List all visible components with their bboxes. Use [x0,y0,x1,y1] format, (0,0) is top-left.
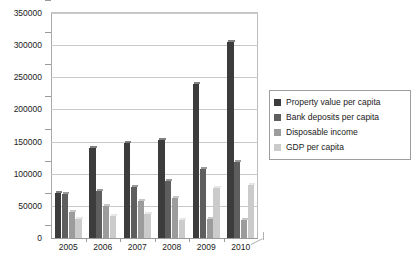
bar [124,143,130,238]
legend-swatch-icon [274,114,281,121]
bar-face [241,220,247,238]
legend-item: Property value per capita [274,95,407,110]
bar-top-cap [249,183,255,185]
bar [144,214,150,238]
y-tick-label: 0 [0,234,42,243]
bar [110,216,116,238]
bar-face [103,206,109,238]
bar [200,169,206,238]
bar-face [172,198,178,238]
y-tick-label: 150000 [0,138,42,147]
y-tick-mark [45,129,51,130]
bar-face [234,162,240,238]
bar [207,219,213,238]
bar [234,162,240,238]
legend-item-label: Disposable income [286,128,358,137]
x-tick-label: 2009 [189,243,224,252]
bar-top-cap [145,212,151,214]
bar [55,193,61,238]
x-tick-label: 2005 [51,243,86,252]
y-tick-label: 250000 [0,73,42,82]
bar-top-cap [159,138,165,140]
legend-item: Disposable income [274,125,407,140]
bar [69,212,75,238]
bar-face [110,216,116,238]
bar-top-cap [173,196,179,198]
x-tick-mark [86,238,87,242]
y-tick-label: 300000 [0,41,42,50]
bar [179,220,185,238]
bar-top-cap [132,185,138,187]
x-tick-label: 2010 [224,243,259,252]
legend-item-label: GDP per capita [286,143,344,152]
bar-face [165,181,171,238]
plot-area [51,13,258,238]
y-tick-mark [45,64,51,65]
bar-face [96,191,102,238]
x-tick-label: 2007 [120,243,155,252]
bar [75,219,81,238]
y-tick-mark [45,225,51,226]
y-tick-mark [45,32,51,33]
bar-face [138,201,144,238]
bar [96,191,102,238]
bar-face [248,185,254,238]
legend-item-label: Property value per capita [286,98,381,107]
bar-top-cap [235,160,241,162]
bar [158,140,164,238]
bar-face [131,187,137,238]
x-tick-label: 2006 [86,243,121,252]
bar [131,187,137,238]
bar-face [207,219,213,238]
bar-face [179,220,185,238]
legend-item: Bank deposits per capita [274,110,407,125]
bar-face [144,214,150,238]
y-tick-label: 100000 [0,170,42,179]
legend-swatch-icon [274,144,281,151]
x-tick-mark [155,238,156,242]
bar-face [62,194,68,238]
bar [213,188,219,238]
bar-top-cap [201,167,207,169]
bar-top-cap [56,191,62,193]
bar-face [200,169,206,238]
x-tick-label: 2008 [155,243,190,252]
bar-top-cap [63,192,69,194]
bar [62,194,68,238]
bar-group [224,13,259,238]
legend-swatch-icon [274,129,281,136]
bar [165,181,171,238]
y-tick-mark [45,96,51,97]
bar [103,206,109,238]
bar-face [89,148,95,238]
bar-group [86,13,121,238]
legend-item: GDP per capita [274,140,407,155]
bar-top-cap [97,189,103,191]
x-tick-mark [189,238,190,242]
bar-top-cap [70,210,76,212]
bar-top-cap [194,82,200,84]
bar-face [75,219,81,238]
bar-face [158,140,164,238]
bar-top-cap [228,40,234,42]
bar-top-cap [90,146,96,148]
bar-face [227,42,233,238]
bar-top-cap [125,141,131,143]
chart-legend: Property value per capita Bank deposits … [269,90,411,160]
y-tick-mark [45,0,51,1]
bar-group [120,13,155,238]
bar-group [51,13,86,238]
bar-face [69,212,75,238]
bar [227,42,233,238]
bar-top-cap [104,204,110,206]
bar-top-cap [139,199,145,201]
bar-group [189,13,224,238]
y-tick-label: 350000 [0,9,42,18]
legend-item-label: Bank deposits per capita [286,113,379,122]
bar-top-cap [166,179,172,181]
bar-group [155,13,190,238]
y-tick-label: 50000 [0,202,42,211]
bar-face [213,188,219,238]
y-tick-mark [45,193,51,194]
bar-top-cap [214,186,220,188]
